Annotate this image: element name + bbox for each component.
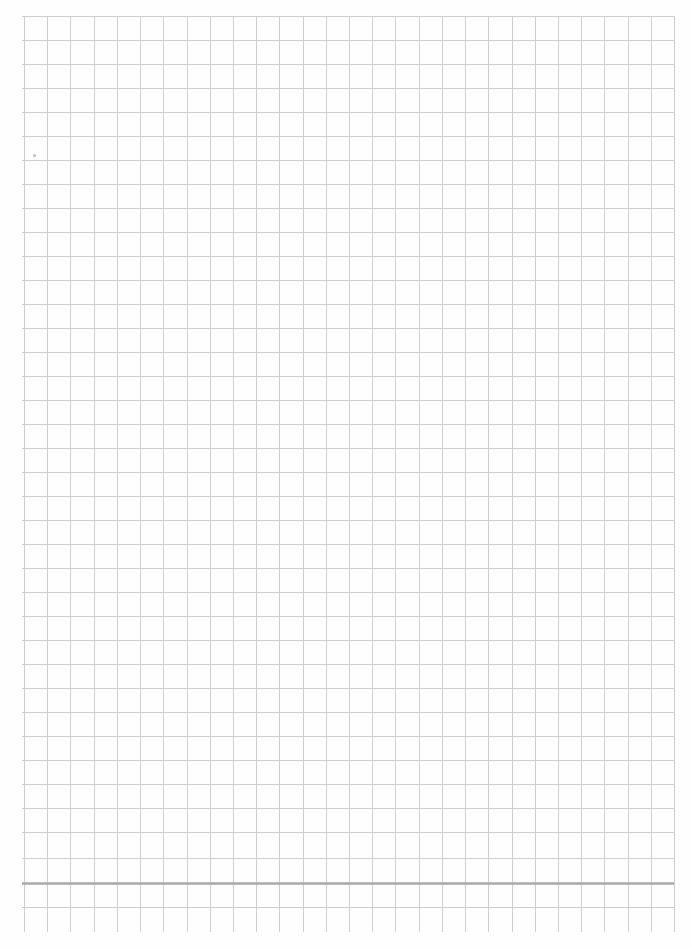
grid-paper-sheet — [0, 0, 691, 949]
stray-mark — [33, 154, 36, 157]
grid-lines — [0, 0, 691, 949]
